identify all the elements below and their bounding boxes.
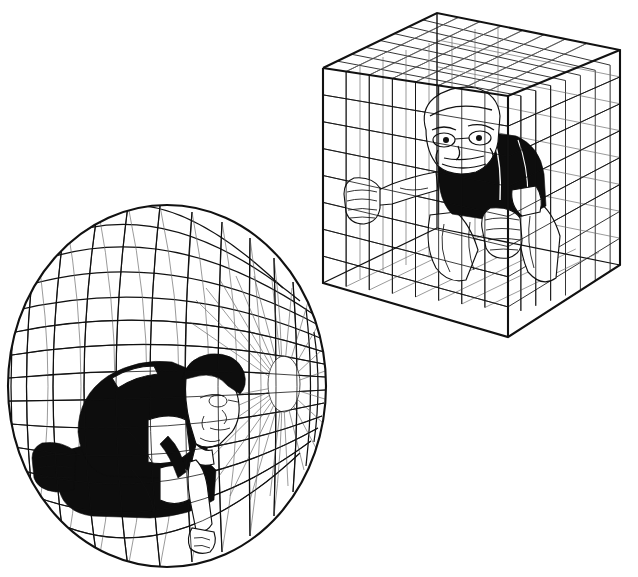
wireframe-cube-cage xyxy=(0,0,638,577)
illustration-canvas: Man in a wireframe cube and man in a wir… xyxy=(0,0,638,577)
